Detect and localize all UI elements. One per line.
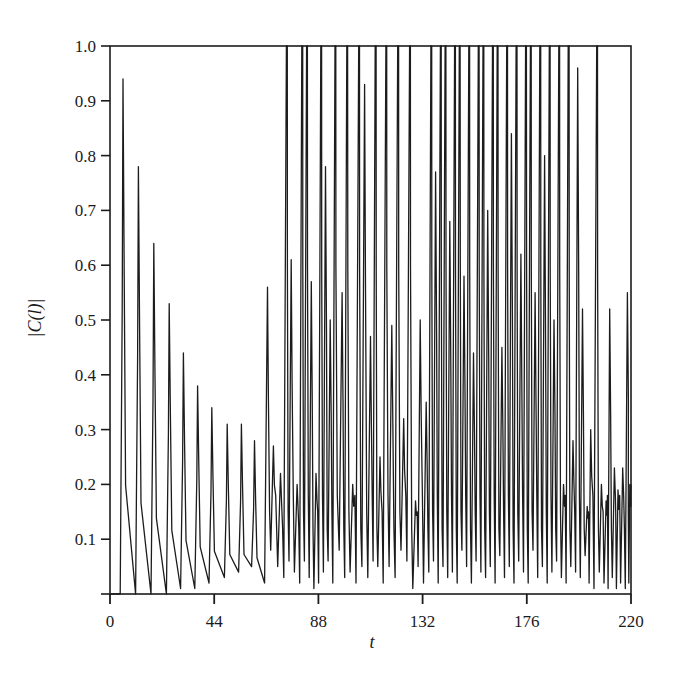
y-tick-label: 0.9 xyxy=(75,92,96,111)
x-tick-label: 132 xyxy=(410,612,436,631)
x-tick-label: 88 xyxy=(310,612,327,631)
y-tick-label: 0.6 xyxy=(75,256,96,275)
y-axis: 0.10.20.30.40.50.60.70.80.91.0 xyxy=(75,37,110,594)
y-tick-label: 0.1 xyxy=(75,530,96,549)
y-tick-label: 0.5 xyxy=(75,311,96,330)
x-tick-label: 176 xyxy=(514,612,540,631)
x-axis: 04488132176220 xyxy=(106,594,644,631)
y-tick-label: 1.0 xyxy=(75,37,96,56)
x-tick-label: 220 xyxy=(618,612,644,631)
y-axis-title: |C(l)| xyxy=(25,299,46,338)
c-magnitude-line xyxy=(110,46,631,594)
y-tick-label: 0.8 xyxy=(75,147,96,166)
line-chart: 04488132176220 0.10.20.30.40.50.60.70.80… xyxy=(0,0,674,686)
y-tick-label: 0.4 xyxy=(75,366,97,385)
y-tick-label: 0.2 xyxy=(75,475,96,494)
x-tick-label: 44 xyxy=(206,612,224,631)
x-axis-title: t xyxy=(369,632,375,652)
data-series-line xyxy=(110,46,631,594)
y-tick-label: 0.7 xyxy=(75,201,97,220)
y-tick-label: 0.3 xyxy=(75,421,96,440)
x-tick-label: 0 xyxy=(106,612,115,631)
